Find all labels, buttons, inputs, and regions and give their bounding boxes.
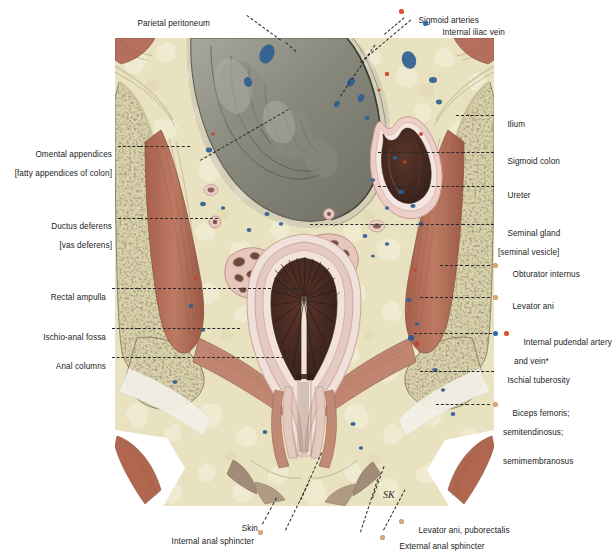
label-hamstrings-sub: semitendinosus;: [503, 428, 573, 438]
label-omental-appendices-sub: [fatty appendices of colon]: [0, 169, 112, 179]
leader-levator-ani-in: [420, 297, 468, 298]
label-ductus-deferens-text: Ductus deferens: [51, 222, 112, 231]
label-obturator-internus-text: Obturator internus: [512, 270, 579, 279]
leader-sigmoid-colon-in: [378, 152, 464, 153]
leader-ductus-deferens-in: [140, 218, 218, 219]
label-ischial-tuberosity-text: Ischial tuberosity: [507, 376, 569, 385]
label-levator-ani-text: Levator ani: [512, 302, 553, 311]
label-anal-columns-text: Anal columns: [56, 362, 106, 371]
leader-parietal-peritoneum: [246, 15, 281, 40]
label-seminal-gland-text: Seminal gland: [507, 229, 560, 238]
leader-ilium-in: [456, 115, 474, 116]
label-ureter: Ureter: [498, 181, 531, 210]
label-parietal-peritoneum: Parietal peritoneum: [128, 9, 210, 38]
leader-rectal-ampulla: [112, 288, 138, 289]
leader-anal-columns-in: [138, 357, 294, 358]
leader-omental-appendices-in: [140, 146, 190, 147]
dot-levator-ani: [493, 295, 498, 300]
dot-internal-pudendal-artery: [504, 331, 509, 336]
label-ischial-tuberosity: Ischial tuberosity: [498, 366, 570, 395]
label-sigmoid-colon-text: Sigmoid colon: [507, 157, 560, 166]
leader-obturator-internus-in: [440, 265, 468, 266]
leader-ischial-tuberosity: [462, 371, 494, 372]
leader-hamstrings-in: [436, 404, 468, 405]
leader-levator-ani: [466, 297, 490, 298]
dot-sigmoid-arteries: [399, 9, 404, 14]
label-anal-columns: Anal columns: [0, 352, 106, 381]
label-levator-ani: Levator ani: [503, 292, 554, 321]
label-omental-appendices: Omental appendices [fatty appendices of …: [0, 140, 112, 198]
label-internal-anal-sphincter: Internal anal sphincter: [120, 527, 254, 555]
leader-internal-pudendal: [466, 333, 492, 334]
leader-sigmoid-colon: [462, 152, 494, 153]
leader-ureter: [462, 186, 494, 187]
dot-levator-ani-puborectalis: [399, 519, 404, 524]
leader-ureter-in: [378, 186, 464, 187]
label-parietal-peritoneum-text: Parietal peritoneum: [137, 19, 210, 28]
label-ductus-deferens: Ductus deferens [vas deferens]: [0, 212, 112, 270]
leader-seminal-gland: [462, 224, 494, 225]
label-ischio-anal-fossa: Ischio-anal fossa: [0, 323, 106, 352]
dot-hamstrings: [493, 402, 498, 407]
label-ductus-deferens-sub: [vas deferens]: [0, 241, 112, 251]
label-obturator-internus: Obturator internus: [503, 260, 580, 289]
label-external-anal-sphincter: External anal sphincter: [390, 532, 485, 555]
label-internal-pudendal-sub: and vein*: [514, 357, 612, 367]
label-rectal-ampulla: Rectal ampulla: [0, 283, 106, 312]
label-ilium: Ilium: [498, 110, 525, 139]
label-ureter-text: Ureter: [507, 191, 530, 200]
dot-internal-pudendal-vein: [493, 331, 498, 336]
label-sigmoid-colon: Sigmoid colon: [498, 147, 560, 176]
leader-ischio-anal-fossa: [112, 328, 138, 329]
dot-obturator-internus: [493, 263, 498, 268]
label-hamstrings-sub2: semimembranosus: [503, 457, 573, 467]
leader-obturator-internus: [466, 265, 490, 266]
leader-rectal-ampulla-in: [138, 288, 306, 289]
label-rectal-ampulla-text: Rectal ampulla: [51, 293, 106, 302]
label-external-anal-sphincter-text: External anal sphincter: [399, 542, 484, 551]
artist-signature-text: SK: [383, 489, 395, 500]
anatomy-illustration: [115, 38, 494, 506]
leader-ischio-anal-fossa-in: [138, 328, 240, 329]
artist-signature: SK: [383, 489, 395, 500]
label-internal-iliac-vein-text: Internal iliac vein: [442, 28, 505, 37]
dot-external-anal-sphincter: [380, 535, 385, 540]
label-ilium-text: Ilium: [507, 120, 525, 129]
label-internal-anal-sphincter-text: Internal anal sphincter: [172, 537, 254, 546]
leader-seminal-gland-in: [310, 224, 464, 225]
dot-internal-iliac-vein: [423, 21, 428, 26]
label-hamstrings: Biceps femoris; semitendinosus; semimemb…: [503, 399, 573, 485]
label-ischio-anal-fossa-text: Ischio-anal fossa: [43, 333, 106, 342]
label-internal-pudendal-text: Internal pudendal artery: [523, 338, 611, 347]
leader-ductus-deferens: [118, 218, 140, 219]
leader-hamstrings: [466, 404, 490, 405]
leader-ischial-tuberosity-in: [420, 371, 466, 372]
label-seminal-gland-sub: [seminal vesicle]: [498, 248, 560, 258]
label-hamstrings-text: Biceps femoris;: [512, 409, 569, 418]
label-omental-appendices-text: Omental appendices: [35, 150, 112, 159]
leader-internal-pudendal-in: [414, 333, 468, 334]
label-internal-iliac-vein: Internal iliac vein: [433, 18, 505, 47]
leader-anal-columns: [112, 357, 138, 358]
dot-internal-anal-sphincter: [258, 530, 263, 535]
leader-omental-appendices: [118, 146, 140, 147]
